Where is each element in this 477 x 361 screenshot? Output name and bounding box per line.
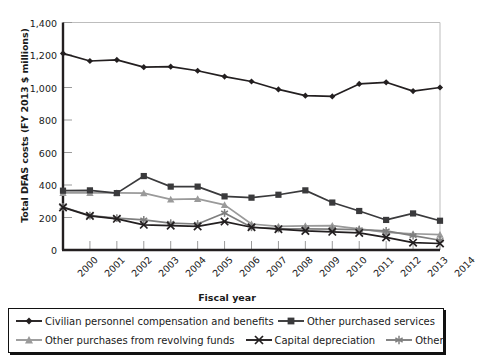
asterisk-marker-icon: [385, 333, 413, 349]
chart-svg: [0, 0, 454, 296]
y-axis-title: Total DFAS costs (FY 2013 $ millions): [19, 6, 30, 246]
legend-label: Other purchased services: [307, 317, 435, 327]
square-marker-icon: [277, 314, 305, 330]
legend-row-1: Civilian personnel compensation and bene…: [15, 312, 437, 331]
legend-entry-other-purchases-from-revolving-funds: Other purchases from revolving funds: [15, 333, 235, 349]
x-marker-icon: [245, 333, 273, 349]
chart-plot-area: Total DFAS costs (FY 2013 $ millions) Fi…: [0, 0, 454, 296]
triangle-marker-icon: [15, 333, 43, 349]
legend-entry-other-purchased-services: Other purchased services: [277, 314, 435, 330]
series-civilian-personnel-compensation-and-benefits: [60, 50, 443, 99]
legend-label: Civilian personnel compensation and bene…: [45, 317, 274, 327]
x-axis-tick-label: 2014: [452, 254, 477, 279]
x-axis-title: Fiscal year: [0, 292, 454, 303]
legend-row-2: Other purchases from revolving funds Cap…: [15, 331, 437, 350]
legend-label: Other: [415, 336, 443, 346]
y-axis-tick-label: 200: [13, 212, 57, 223]
y-axis-tick-label: 1,400: [13, 17, 57, 28]
y-axis-tick-label: 600: [13, 147, 57, 158]
y-axis-tick-label: 800: [13, 115, 57, 126]
legend-entry-capital-depreciation: Capital depreciation: [245, 333, 376, 349]
diamond-marker-icon: [15, 314, 43, 330]
y-axis-tick-label: 1,000: [13, 82, 57, 93]
legend-label: Capital depreciation: [275, 336, 376, 346]
y-axis-tick-label: 0: [13, 245, 57, 256]
legend-label: Other purchases from revolving funds: [45, 336, 235, 346]
legend-entry-other: Other: [385, 333, 443, 349]
legend-entry-civilian-personnel-compensation-and-benefits: Civilian personnel compensation and bene…: [15, 314, 274, 330]
y-axis-tick-label: 1,200: [13, 50, 57, 61]
chart-legend: Civilian personnel compensation and bene…: [8, 308, 444, 353]
y-axis-tick-label: 400: [13, 180, 57, 191]
